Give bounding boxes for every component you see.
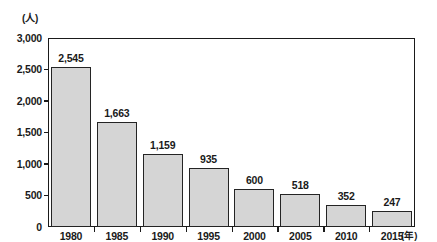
- bar: [143, 154, 183, 227]
- bar: [51, 67, 91, 227]
- bar-value-label: 1,159: [135, 140, 191, 151]
- bar-value-label: 2,545: [43, 53, 99, 64]
- bar: [189, 168, 229, 227]
- y-axis-tick-label: 3,000: [17, 33, 42, 44]
- bar-value-label: 518: [272, 180, 328, 191]
- y-axis-tick-label: 1,000: [17, 159, 42, 170]
- bar: [372, 211, 412, 227]
- bar: [234, 189, 274, 227]
- bar: [326, 205, 366, 227]
- bar-chart: (人) 3,0002,5002,0001,5001,0005000 2,5451…: [0, 0, 437, 242]
- y-axis-tick-label: 1,500: [17, 127, 42, 138]
- y-axis-tick-label: 2,000: [17, 96, 42, 107]
- y-axis-tick-label: 2,500: [17, 64, 42, 75]
- x-axis-unit-label: (年): [401, 230, 417, 242]
- bar-value-label: 935: [181, 154, 237, 165]
- y-axis-tick-label: 500: [25, 190, 42, 201]
- y-axis-unit-label: (人): [22, 13, 38, 25]
- bar-value-label: 247: [364, 197, 420, 208]
- bar-value-label: 1,663: [89, 108, 145, 119]
- bar: [97, 122, 137, 227]
- bar: [280, 194, 320, 227]
